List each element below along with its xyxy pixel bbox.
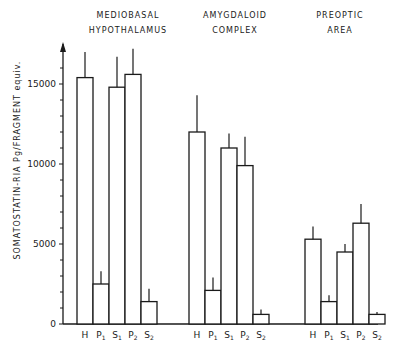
y-axis-arrow-icon xyxy=(60,42,66,52)
y-tick-label: 15000 xyxy=(27,79,56,89)
x-tick-label: S1 xyxy=(340,330,350,341)
bar xyxy=(77,78,93,324)
bar xyxy=(253,314,269,324)
y-tick-label: 5000 xyxy=(33,239,56,249)
bar xyxy=(109,87,125,324)
bar xyxy=(321,302,337,324)
bar xyxy=(353,223,369,324)
x-tick-label: P1 xyxy=(96,330,105,341)
x-tick-label: P1 xyxy=(208,330,217,341)
x-tick-label: P1 xyxy=(324,330,333,341)
x-tick-label: S1 xyxy=(224,330,234,341)
x-tick-label: S1 xyxy=(112,330,122,341)
bar xyxy=(189,132,205,324)
plot-area: 050001000015000HP1S1P2S2HP1S1P2S2HP1S1P2… xyxy=(0,0,403,351)
bar xyxy=(125,74,141,324)
bar xyxy=(237,166,253,324)
bar xyxy=(141,302,157,324)
bar xyxy=(305,239,321,324)
x-tick-label: P2 xyxy=(240,330,249,341)
bar xyxy=(337,252,353,324)
x-tick-label: H xyxy=(82,330,89,340)
x-tick-label: S2 xyxy=(256,330,266,341)
bar xyxy=(221,148,237,324)
bar-chart: MEDIOBASAL HYPOTHALAMUS AMYGDALOID COMPL… xyxy=(0,0,403,351)
x-tick-label: H xyxy=(194,330,201,340)
x-tick-label: H xyxy=(310,330,317,340)
y-tick-label: 10000 xyxy=(27,159,56,169)
x-tick-label: S2 xyxy=(144,330,154,341)
x-tick-label: S2 xyxy=(372,330,382,341)
bar xyxy=(205,290,221,324)
y-tick-label: 0 xyxy=(50,319,56,329)
bar xyxy=(93,284,109,324)
x-tick-label: P2 xyxy=(356,330,365,341)
x-tick-label: P2 xyxy=(128,330,137,341)
bar xyxy=(369,314,385,324)
